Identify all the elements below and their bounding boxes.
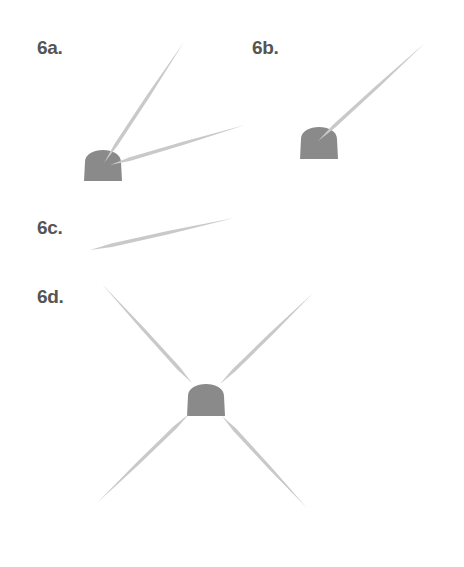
figure-label-6b: 6b. <box>252 38 279 57</box>
figure-label-6d: 6d. <box>37 287 64 306</box>
diagram-canvas <box>0 0 464 567</box>
needle-line <box>102 284 192 383</box>
needle-line <box>220 293 313 384</box>
figure-label-6a: 6a. <box>37 38 63 57</box>
needle-line <box>222 416 307 508</box>
figure-6d <box>97 284 313 508</box>
dome-shape <box>300 127 338 159</box>
needle-line <box>318 43 425 141</box>
dome-shape <box>187 384 225 416</box>
needle-line <box>110 125 245 165</box>
figure-6b <box>300 43 425 159</box>
needle-line <box>97 414 189 503</box>
needle-line <box>90 218 234 250</box>
figure-6c <box>90 218 234 250</box>
figure-label-6c: 6c. <box>37 218 63 237</box>
dome-shape <box>84 150 122 181</box>
figure-6a <box>84 42 245 181</box>
needle-line <box>104 42 184 163</box>
